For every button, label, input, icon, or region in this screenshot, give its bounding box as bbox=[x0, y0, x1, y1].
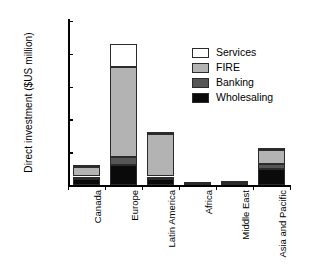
legend-item-banking: Banking bbox=[192, 75, 273, 90]
bar-segment-wholesaling bbox=[73, 179, 100, 185]
legend-swatch-banking bbox=[192, 78, 209, 88]
x-axis-label-africa: Africa bbox=[203, 190, 214, 214]
bar-segment-banking bbox=[147, 177, 174, 180]
x-axis-label-europe: Europe bbox=[129, 190, 140, 221]
bar-segment-services bbox=[184, 182, 211, 184]
bar-segment-banking bbox=[258, 164, 285, 169]
stacked-bar-chart: Direct investment ($US million) 050 0001… bbox=[0, 0, 312, 280]
bar-segment-banking bbox=[110, 157, 137, 164]
legend-label: Banking bbox=[216, 77, 254, 88]
bar-europe bbox=[110, 44, 137, 185]
x-axis-label-latin-america: Latin America bbox=[166, 190, 177, 248]
bar-asia-and-pacific bbox=[258, 148, 285, 185]
x-axis-label-canada: Canada bbox=[92, 190, 103, 223]
legend-label: FIRE bbox=[216, 62, 240, 73]
legend-swatch-services bbox=[192, 48, 209, 58]
bar-segment-fire bbox=[147, 134, 174, 177]
legend-swatch-wholesaling bbox=[192, 93, 209, 103]
legend-label: Wholesaling bbox=[216, 92, 273, 103]
bar-latin-america bbox=[147, 132, 174, 185]
bar-segment-wholesaling bbox=[147, 179, 174, 185]
bar-segment-services bbox=[221, 181, 248, 183]
legend-item-services: Services bbox=[192, 45, 273, 60]
bar-segment-banking bbox=[73, 177, 100, 180]
legend-item-wholesaling: Wholesaling bbox=[192, 90, 273, 105]
bars-layer bbox=[0, 0, 312, 280]
bar-segment-fire bbox=[110, 67, 137, 158]
bar-segment-fire bbox=[73, 167, 100, 177]
bar-segment-services bbox=[147, 132, 174, 134]
bar-segment-services bbox=[73, 165, 100, 167]
x-axis-label-middle-east: Middle East bbox=[240, 190, 251, 240]
bar-canada bbox=[73, 165, 100, 185]
bar-segment-services bbox=[258, 148, 285, 150]
x-axis-label-asia-and-pacific: Asia and Pacific bbox=[277, 190, 288, 258]
legend-swatch-fire bbox=[192, 63, 209, 73]
bar-segment-fire bbox=[258, 150, 285, 164]
legend: ServicesFIREBankingWholesaling bbox=[192, 45, 273, 105]
legend-label: Services bbox=[216, 47, 256, 58]
legend-item-fire: FIRE bbox=[192, 60, 273, 75]
bar-segment-services bbox=[110, 44, 137, 67]
bar-segment-wholesaling bbox=[110, 165, 137, 185]
bar-middle-east bbox=[221, 183, 248, 185]
bar-segment-wholesaling bbox=[258, 169, 285, 185]
bar-africa bbox=[184, 183, 211, 185]
